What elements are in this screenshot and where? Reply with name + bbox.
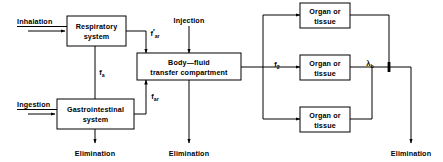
label-elimination-body-fluid: Elimination	[169, 149, 209, 158]
label-organ-bottom-line2: tissue	[314, 121, 336, 130]
label-body-fluid-line1: Body—fluid	[168, 58, 210, 67]
path-organ-bottom-to-collector	[350, 67, 372, 119]
path-collector-to-elimination	[389, 67, 411, 143]
flow-lambda-b-sub: b	[370, 63, 373, 69]
label-elimination-organs: Elimination	[391, 149, 431, 158]
label-inhalation: Inhalation	[17, 17, 52, 26]
label-ingestion: Ingestion	[17, 100, 50, 109]
compartment-diagram: Respiratory system Gastrointestinal syst…	[0, 0, 443, 162]
label-flow-f-ar: far	[151, 92, 158, 102]
label-flow-f-2: f2	[274, 60, 279, 70]
label-body-fluid-line2: transfer compartment	[150, 68, 228, 77]
label-flow-f-ar-prime: f′ar	[150, 27, 159, 38]
label-flow-lambda-b: λb	[366, 59, 373, 69]
box-gastrointestinal-system[interactable]	[57, 99, 134, 129]
box-respiratory-system[interactable]	[67, 16, 126, 46]
label-organ-middle-line2: tissue	[314, 69, 336, 78]
label-organ-bottom-line1: Organ or	[309, 111, 341, 120]
flow-f-ar-prime-sub: ar	[155, 33, 160, 39]
path-gi-to-bodyfluid	[134, 80, 146, 114]
label-gastrointestinal-line1: Gastrointestinal	[67, 105, 124, 114]
flow-f-2-sub: 2	[277, 64, 280, 70]
label-organ-top-line1: Organ or	[309, 7, 341, 16]
path-respiratory-to-bodyfluid	[126, 31, 146, 53]
diagram-canvas: Respiratory system Gastrointestinal syst…	[0, 0, 443, 162]
label-respiratory-line2: system	[84, 32, 110, 41]
label-gastrointestinal-line2: system	[83, 115, 109, 124]
label-flow-f-a: fa	[99, 68, 104, 78]
label-respiratory-line1: Respiratory	[76, 22, 118, 31]
label-organ-middle-line1: Organ or	[309, 59, 341, 68]
flow-f-a-sub: a	[102, 72, 105, 78]
label-elimination-gi: Elimination	[75, 149, 115, 158]
label-injection: Injection	[174, 16, 205, 25]
label-organ-top-line2: tissue	[314, 17, 336, 26]
flow-f-ar-sub: ar	[154, 96, 159, 102]
